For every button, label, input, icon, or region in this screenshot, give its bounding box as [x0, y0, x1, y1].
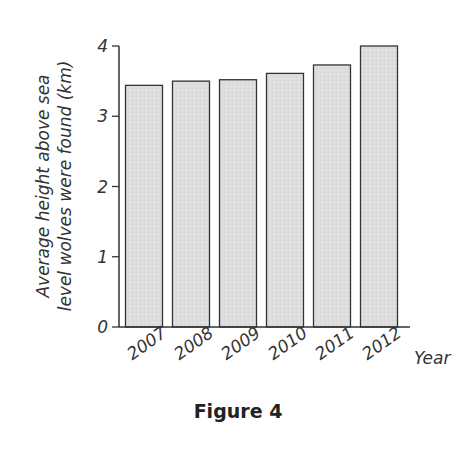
x-tick-label-2010: 2010 — [264, 322, 311, 363]
bar-2011 — [314, 65, 351, 327]
x-axis-title: Year — [414, 348, 451, 368]
y-axis-title-line-2: level wolves were found (km) — [55, 61, 75, 312]
x-tick-label-2008: 2008 — [170, 322, 217, 363]
x-axis-tick-labels: 200720082009201020112012 — [123, 322, 405, 363]
x-tick-label-2009: 2009 — [217, 322, 264, 363]
x-tick-label-2011: 2011 — [311, 322, 358, 363]
y-axis-title: Average height above sea level wolves we… — [33, 61, 75, 312]
y-axis-title-line-1: Average height above sea — [33, 74, 53, 298]
bar-chart: 01234 200720082009201020112012 Year Aver… — [0, 0, 476, 400]
y-tick-label: 0 — [97, 317, 108, 337]
y-tick-label: 4 — [97, 36, 108, 56]
bar-2012 — [361, 46, 398, 327]
bar-2007 — [126, 85, 163, 327]
bars — [126, 46, 398, 327]
bar-2008 — [173, 81, 210, 327]
figure-caption: Figure 4 — [0, 400, 476, 422]
y-tick-label: 1 — [97, 247, 108, 267]
y-tick-label: 3 — [97, 106, 108, 126]
y-tick-label: 2 — [97, 177, 108, 197]
x-tick-label-2012: 2012 — [358, 322, 405, 363]
bar-2010 — [267, 73, 304, 327]
bar-2009 — [220, 80, 257, 327]
x-tick-label-2007: 2007 — [123, 322, 170, 363]
y-axis-ticks: 01234 — [97, 36, 119, 337]
